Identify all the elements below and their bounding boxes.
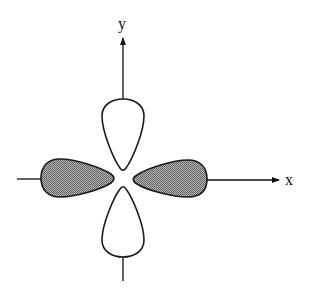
lobe-left	[41, 159, 114, 197]
lobe-top	[102, 99, 144, 170]
y-axis-label: y	[118, 15, 126, 33]
lobe-bottom	[102, 187, 144, 257]
x-axis-label: x	[285, 171, 293, 188]
lobe-right	[133, 160, 207, 197]
orbital-diagram: y x	[0, 0, 310, 296]
